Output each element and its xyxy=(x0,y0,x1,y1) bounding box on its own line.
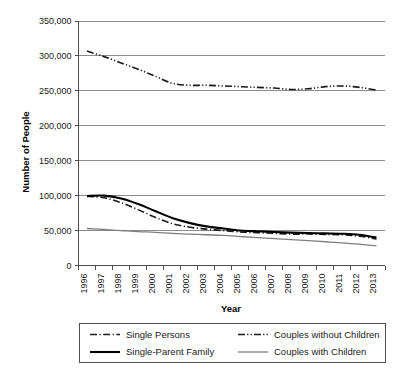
y-tick-label: 350,000 xyxy=(39,16,72,26)
x-tick-label: 1997 xyxy=(96,274,106,294)
x-tick-label: 2007 xyxy=(266,274,276,294)
x-tick-label: 2002 xyxy=(181,274,191,294)
y-tick-label: 200,000 xyxy=(39,121,72,131)
x-tick-label: 2003 xyxy=(198,274,208,294)
x-tick-label: 2011 xyxy=(334,274,344,293)
x-tick-label: 1998 xyxy=(113,274,123,294)
x-tick-label: 2004 xyxy=(215,274,225,294)
y-tick-label: 300,000 xyxy=(39,51,72,61)
x-tick-label: 1999 xyxy=(130,274,140,294)
x-axis-title: Year xyxy=(221,303,241,314)
x-tick-label: 2012 xyxy=(351,274,361,294)
legend-label: Couples with Children xyxy=(274,346,366,357)
x-tick-label: 2000 xyxy=(147,274,157,294)
y-tick-label: 150,000 xyxy=(39,156,72,166)
x-tick-label: 2008 xyxy=(283,274,293,294)
y-tick-label: 0 xyxy=(66,261,71,271)
x-tick-label: 2010 xyxy=(317,274,327,294)
x-tick-label: 1996 xyxy=(79,274,89,294)
y-tick-label: 250,000 xyxy=(39,86,72,96)
legend-label: Single Persons xyxy=(126,329,190,340)
legend-label: Couples without Children xyxy=(274,329,380,340)
x-tick-label: 2009 xyxy=(300,274,310,294)
y-tick-label: 100,000 xyxy=(39,191,72,201)
x-tick-label: 2001 xyxy=(164,274,174,294)
line-chart: 050,000100,000150,000200,000250,000300,0… xyxy=(0,0,398,371)
y-tick-label: 50,000 xyxy=(44,226,72,236)
x-tick-label: 2005 xyxy=(232,274,242,294)
chart-container: 050,000100,000150,000200,000250,000300,0… xyxy=(0,0,398,371)
y-axis-title: Number of People xyxy=(20,111,31,192)
x-tick-label: 2013 xyxy=(368,274,378,294)
legend-label: Single-Parent Family xyxy=(126,346,214,357)
x-tick-label: 2006 xyxy=(249,274,259,294)
